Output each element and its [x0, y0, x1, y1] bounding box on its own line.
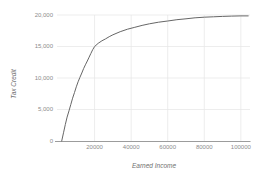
y-tick-label: 10,000	[0, 75, 53, 82]
x-axis-title: Earned Income	[58, 162, 250, 169]
tax-credit-curve	[62, 16, 249, 141]
y-tick-label: 20,000	[0, 12, 53, 19]
x-tick-label: 20000	[86, 144, 103, 151]
x-tick-label: 100000	[231, 144, 251, 151]
x-tick-label: 40000	[123, 144, 140, 151]
x-tick-label: 60000	[159, 144, 176, 151]
y-tick-label: 0	[0, 138, 53, 145]
y-axis-title: Tax Credit	[10, 69, 17, 98]
y-tick-label: 5,000	[0, 106, 53, 113]
x-tick-label: 80000	[196, 144, 213, 151]
y-tick-label: 15,000	[0, 43, 53, 50]
line-chart-plot-area	[0, 0, 264, 178]
chart-container: 05,00010,00015,00020,0002000040000600008…	[0, 0, 264, 178]
